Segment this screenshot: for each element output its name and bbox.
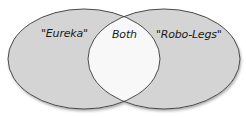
venn-diagram: "Eureka" Both "Robo-Legs" bbox=[0, 0, 246, 117]
set-label-robo-legs: "Robo-Legs" bbox=[156, 29, 222, 41]
intersection-label-both: Both bbox=[112, 29, 137, 41]
venn-graphic bbox=[0, 0, 246, 117]
set-label-eureka: "Eureka" bbox=[41, 28, 88, 40]
